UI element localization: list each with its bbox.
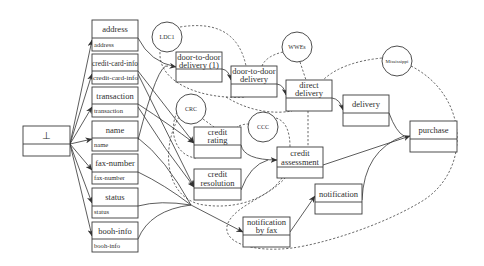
attribute-title: address (102, 24, 128, 34)
attribute-subtitle: name (94, 141, 108, 148)
activity-credit-assessment: credit assessment (277, 147, 323, 178)
service-crc: CRC (176, 94, 206, 124)
wwes-enclosure-right (300, 62, 306, 80)
service-ldc1: LDC1 (152, 22, 182, 52)
mississippi-enclosure-left (323, 58, 382, 80)
root-title: ⊥ (42, 130, 51, 141)
attribute-name: name name (92, 121, 138, 151)
attribute-subtitle: status (94, 208, 109, 215)
attribute-title: credit-card-info (92, 58, 138, 68)
root-node: ⊥ (23, 126, 70, 156)
service-label: Mississippi (386, 59, 409, 64)
activity-credit-rating: credit rating (194, 127, 241, 158)
activity-direct-delivery: direct delivery (286, 80, 332, 111)
activity-delivery: delivery (343, 95, 389, 126)
service-ccc: CCC (248, 112, 278, 142)
attribute-subtitle: address (94, 41, 114, 48)
activity-notification-by-fax: notification by fax (243, 217, 290, 247)
activity-label-line2: by fax (256, 225, 278, 235)
activity-notification: notification (315, 184, 362, 214)
attribute-title: booh-info (98, 226, 132, 236)
attribute-title: transaction (96, 91, 134, 101)
activity-door-to-door-delivery-1: door-to-door delivery (1) (176, 52, 222, 82)
attribute-title: fax-number (95, 158, 135, 168)
attribute-subtitle: booh-info (94, 242, 121, 249)
activity-label-line2: delivery (240, 74, 269, 84)
activity-label-line2: delivery (295, 88, 324, 98)
crc-enclosure-top (203, 119, 214, 127)
attribute-subtitle: credit-card-info (93, 74, 139, 81)
attribute-booh-info: booh-info booh-info (92, 222, 138, 252)
service-label: LDC1 (160, 34, 175, 40)
attribute-address: address address (92, 20, 138, 51)
composition-diagram: ⊥ address address credit-card-info credi… (0, 0, 484, 266)
wwes-enclosure-bottom (226, 97, 292, 112)
attribute-credit-card-info: credit-card-info credit-card-info (92, 54, 139, 84)
service-wwes: WWEs (282, 32, 312, 62)
attribute-title: name (106, 125, 125, 135)
activity-label: notification (319, 189, 359, 199)
service-mississippi: Mississippi (382, 46, 412, 76)
activity-label: purchase (418, 125, 448, 135)
attribute-subtitle: transaction (94, 107, 124, 114)
attribute-subtitle: fax-number (94, 174, 126, 181)
activity-label-line2: delivery (1) (179, 60, 219, 70)
activity-credit-resolution: credit resolution (194, 169, 241, 200)
activity-label: delivery (352, 99, 381, 109)
wwes-enclosure-left (262, 52, 283, 66)
service-label: CRC (185, 106, 197, 112)
attribute-title: status (105, 192, 124, 202)
activity-label-line2: rating (208, 135, 229, 145)
service-label: WWEs (288, 44, 306, 50)
ccc-enclosure-right (276, 118, 290, 147)
activity-label-line2: resolution (201, 178, 236, 188)
service-label: CCC (257, 124, 269, 130)
activity-door-to-door-delivery: door-to-door delivery (231, 66, 277, 97)
attribute-status: status status (92, 188, 138, 218)
activity-purchase: purchase (410, 121, 457, 152)
attribute-fax-number: fax-number fax-number (92, 154, 138, 184)
attribute-transaction: transaction transaction (92, 87, 138, 117)
activity-label-line2: assessment (281, 157, 319, 167)
